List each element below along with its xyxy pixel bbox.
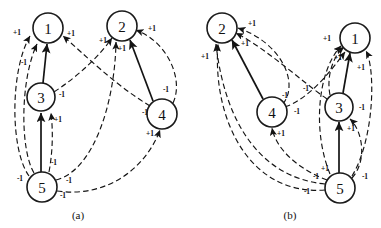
edge-weight-label: +1 xyxy=(277,129,285,138)
panel-caption: (a) xyxy=(72,209,85,222)
edge-weight-label: +1 xyxy=(146,129,154,138)
edge-weight-label: +1 xyxy=(201,52,209,61)
panels-layer: 12345+1-1+1+1+1+1-1-1-1+1+1-1-1-1-1(a)21… xyxy=(13,11,372,222)
edge-5-to-4 xyxy=(57,130,160,192)
edge-weight-label: -1 xyxy=(282,91,288,100)
node-2[interactable]: 2 xyxy=(207,13,237,43)
node-label-4: 4 xyxy=(268,105,276,121)
node-label-1: 1 xyxy=(351,31,359,47)
node-1[interactable]: 1 xyxy=(33,13,63,43)
edge-weight-label: -1 xyxy=(17,174,23,183)
edge-weight-label: +1 xyxy=(241,39,249,48)
node-label-3: 3 xyxy=(37,90,45,106)
edge-weight-label: +1 xyxy=(357,63,365,72)
edge-weight-label: -1 xyxy=(142,108,148,117)
node-2[interactable]: 2 xyxy=(107,11,137,41)
edge-weight-label: +1 xyxy=(347,124,355,133)
node-4[interactable]: 4 xyxy=(257,97,287,127)
signed-digraph-figure: 12345+1-1+1+1+1+1-1-1-1+1+1-1-1-1-1(a)21… xyxy=(0,0,381,228)
node-label-2: 2 xyxy=(118,19,126,35)
edge-weight-label: +1 xyxy=(321,164,329,173)
node-label-3: 3 xyxy=(335,100,343,116)
node-5[interactable]: 5 xyxy=(27,172,57,202)
node-label-1: 1 xyxy=(44,21,52,37)
edge-weight-label: +1 xyxy=(248,19,256,28)
edge-weight-label: -1 xyxy=(21,58,27,67)
edge-weight-label: -1 xyxy=(313,172,319,181)
node-label-2: 2 xyxy=(218,21,226,37)
edge-3-to-2 xyxy=(236,33,327,99)
node-3[interactable]: 3 xyxy=(27,83,55,111)
edge-weight-label: +1 xyxy=(99,36,107,45)
edge-weight-label: +1 xyxy=(323,34,331,43)
edge-weight-label: -1 xyxy=(60,191,66,200)
edge-3-to-2 xyxy=(54,38,112,92)
figure-canvas: 12345+1-1+1+1+1+1-1-1-1+1+1-1-1-1-1(a)21… xyxy=(0,0,381,228)
edge-weight-label: -1 xyxy=(362,172,368,181)
panel-a: 12345+1-1+1+1+1+1-1-1-1+1+1-1-1-1-1(a) xyxy=(13,11,177,222)
edge-weight-label: -1 xyxy=(66,176,72,185)
node-4[interactable]: 4 xyxy=(147,99,177,129)
edge-weight-label: +1 xyxy=(13,28,21,37)
edge-weight-label: -1 xyxy=(303,84,309,93)
edge-weight-label: -1 xyxy=(51,158,57,167)
edge-5-to-2 xyxy=(56,42,116,180)
panel-caption: (b) xyxy=(284,209,297,222)
node-label-5: 5 xyxy=(336,181,344,197)
edge-weight-label: +1 xyxy=(118,44,126,53)
edge-weight-label: +1 xyxy=(67,29,75,38)
panel-b: 21435+1+1+1+1+1+1-1-1-1-1+1+1+1-1-1-1(b) xyxy=(201,13,372,222)
edge-weight-label: +1 xyxy=(54,115,62,124)
edge-3-to-1 xyxy=(43,44,47,83)
edge-4-to-1 xyxy=(63,36,150,106)
edge-weight-label: -1 xyxy=(59,90,65,99)
node-1[interactable]: 1 xyxy=(340,23,370,53)
node-3[interactable]: 3 xyxy=(325,93,353,121)
edge-weight-label: -1 xyxy=(359,103,365,112)
edge-4-to-2 xyxy=(130,40,153,101)
node-5[interactable]: 5 xyxy=(325,173,355,203)
edge-weight-label: +1 xyxy=(148,24,156,33)
edge-weight-label: -1 xyxy=(294,107,300,116)
edge-weight-label: -1 xyxy=(163,85,169,94)
edge-weight-label: +1 xyxy=(334,53,342,62)
edge-4-to-2 xyxy=(136,30,176,103)
edge-weight-label: -1 xyxy=(304,187,310,196)
node-label-4: 4 xyxy=(158,107,166,123)
edge-3-to-1 xyxy=(343,53,350,93)
edge-4-to-2 xyxy=(232,40,263,99)
node-label-5: 5 xyxy=(38,180,46,196)
